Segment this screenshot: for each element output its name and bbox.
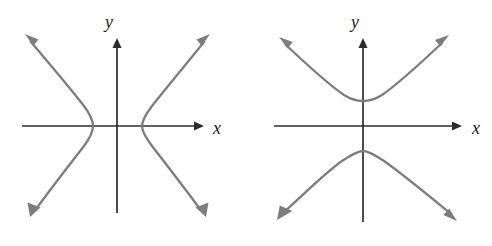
x-axis-arrowhead: [452, 122, 462, 131]
right-x-axis: [274, 122, 462, 131]
lower-branch-curve: [277, 151, 457, 221]
right-y-axis: [359, 38, 368, 222]
y-axis-arrowhead: [113, 38, 122, 48]
upper-branch-right-arrowhead: [435, 35, 449, 47]
right-y-axis-label: y: [349, 12, 359, 32]
left-x-axis: [22, 122, 204, 131]
hyperbola-figure: y x: [0, 0, 492, 246]
y-axis-arrowhead: [359, 38, 368, 48]
right-x-axis-label: x: [471, 118, 480, 138]
x-axis-arrowhead: [194, 122, 204, 131]
left-x-axis-label: x: [212, 118, 221, 138]
left-hyperbola-panel: y x: [0, 0, 246, 246]
left-y-axis-label: y: [103, 12, 113, 32]
upper-branch-left-arrowhead: [279, 37, 293, 49]
right-hyperbola-panel: y x: [246, 0, 492, 246]
